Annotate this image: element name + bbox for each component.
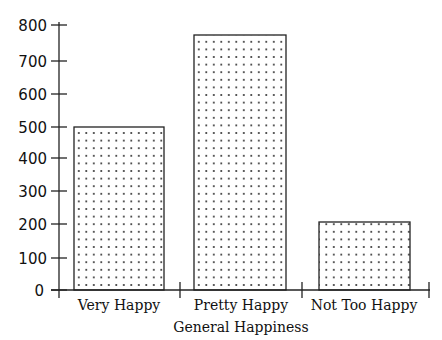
x-axis-title: General Happiness bbox=[173, 319, 308, 335]
category-label-not-too-happy: Not Too Happy bbox=[311, 297, 418, 313]
y-tick-label: 100 bbox=[18, 250, 47, 268]
y-tick-label: 200 bbox=[18, 216, 47, 234]
bars bbox=[74, 35, 410, 290]
bar-chart: 0 100 200 300 400 500 600 700 800 Very H… bbox=[0, 0, 442, 340]
y-tick-labels: 0 100 200 300 400 500 600 700 800 bbox=[18, 17, 47, 300]
y-tick-label: 600 bbox=[18, 86, 47, 104]
y-tick-label: 400 bbox=[18, 150, 47, 168]
category-label-pretty-happy: Pretty Happy bbox=[194, 297, 288, 313]
bar-very-happy bbox=[74, 127, 164, 290]
y-tick-label: 700 bbox=[18, 53, 47, 71]
category-label-very-happy: Very Happy bbox=[77, 297, 161, 313]
y-tick-label: 0 bbox=[34, 282, 44, 300]
bar-not-too-happy bbox=[319, 222, 410, 290]
y-tick-label: 800 bbox=[18, 17, 47, 35]
y-tick-label: 300 bbox=[18, 183, 47, 201]
y-tick-label: 500 bbox=[18, 119, 47, 137]
bar-pretty-happy bbox=[194, 35, 286, 290]
x-tick-labels: Very Happy Pretty Happy Not Too Happy bbox=[77, 297, 418, 313]
